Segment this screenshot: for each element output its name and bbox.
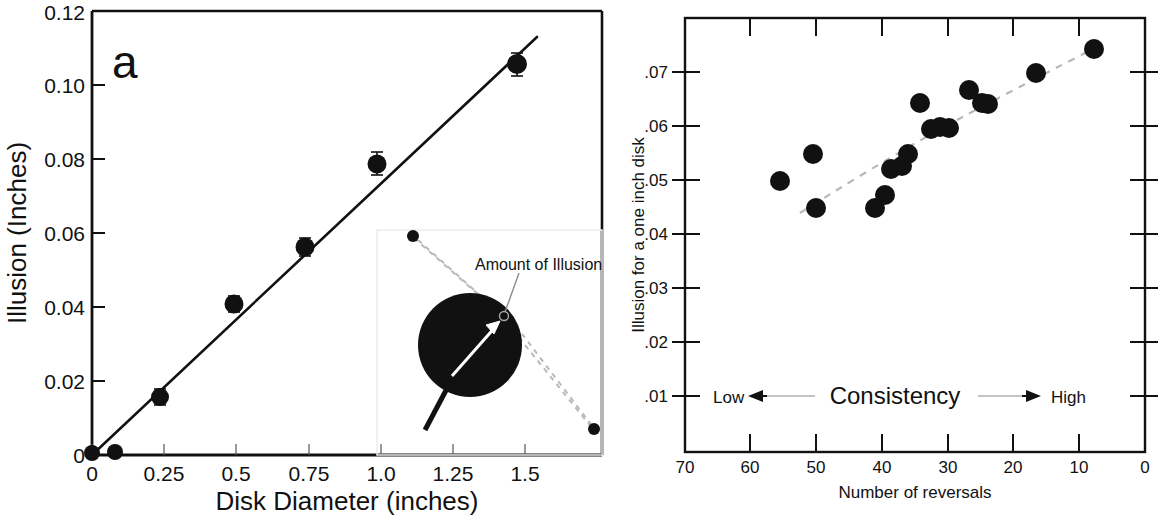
- panel-b-x-axis-title: Number of reversals: [838, 483, 991, 502]
- x-tick-label: 0.75: [289, 462, 330, 485]
- data-point: [151, 388, 169, 406]
- data-point: [978, 94, 998, 114]
- x-tick-label: 20: [1004, 458, 1023, 477]
- y-tick-label: 0.02: [44, 370, 85, 393]
- x-tick-label: 0.25: [144, 462, 185, 485]
- data-point: [770, 171, 790, 191]
- consistency-high-label: High: [1051, 388, 1086, 407]
- panel-b-y-axis-title: Illusion for a one inch disk: [630, 137, 648, 333]
- consistency-low-label: Low: [713, 388, 745, 407]
- x-tick-label: 30: [939, 458, 958, 477]
- x-tick-label: 1.25: [433, 462, 474, 485]
- panel-b-svg: Low Consistency High .01 .02 .03 .04 .05…: [630, 0, 1159, 516]
- data-point: [368, 152, 387, 175]
- panel-a-svg: 0 0.02 0.04 0.06 0.08 0.10 0.12 0 0.25 0…: [0, 0, 630, 516]
- data-point: [939, 118, 959, 138]
- panel-a-x-axis-title: Disk Diameter (inches): [216, 486, 479, 516]
- panel-b-y-ticks: [672, 72, 1158, 396]
- x-tick-label: 70: [676, 458, 695, 477]
- y-tick-label: .06: [644, 117, 668, 136]
- y-tick-label: 0.06: [44, 222, 85, 245]
- panel-b-data-points: [770, 39, 1104, 218]
- x-tick-label: 1.5: [510, 462, 539, 485]
- x-tick-label: 1.0: [366, 462, 395, 485]
- figure-container: 0 0.02 0.04 0.06 0.08 0.10 0.12 0 0.25 0…: [0, 0, 1159, 516]
- consistency-main-label: Consistency: [830, 382, 961, 409]
- data-point: [806, 198, 826, 218]
- inset-annotation-label: Amount of Illusion: [475, 256, 602, 273]
- panel-a-letter: a: [112, 36, 138, 88]
- consistency-annotation: Low Consistency High: [713, 382, 1086, 409]
- data-point: [910, 93, 930, 113]
- x-tick-label: 0.5: [221, 462, 250, 485]
- data-point: [898, 144, 918, 164]
- x-tick-label: 0: [1140, 458, 1149, 477]
- x-tick-label: 40: [873, 458, 892, 477]
- y-tick-label: 0: [73, 444, 85, 467]
- x-tick-label: 60: [741, 458, 760, 477]
- y-tick-label: .01: [644, 387, 668, 406]
- panel-a-axes: [92, 11, 602, 455]
- panel-a-y-tick-labels: 0 0.02 0.04 0.06 0.08 0.10 0.12: [44, 1, 85, 467]
- data-point: [84, 445, 100, 461]
- data-point: [296, 238, 315, 257]
- data-point: [107, 444, 123, 460]
- panel-b-x-tick-labels: 70 60 50 40 30 20 10 0: [676, 458, 1150, 477]
- panel-a-y-axis-title: Illusion (Inches): [2, 142, 32, 324]
- y-tick-label: .07: [644, 63, 668, 82]
- x-tick-label: 0: [86, 462, 98, 485]
- x-tick-label: 10: [1070, 458, 1089, 477]
- panel-b: Low Consistency High .01 .02 .03 .04 .05…: [630, 0, 1159, 516]
- data-point: [1084, 39, 1104, 59]
- data-point: [1026, 63, 1046, 83]
- data-point: [875, 185, 895, 205]
- panel-a-y-ticks: [92, 11, 105, 455]
- data-point: [225, 295, 244, 314]
- inset-dot-lower: [588, 423, 600, 435]
- y-tick-label: .02: [644, 333, 668, 352]
- x-tick-label: 50: [807, 458, 826, 477]
- y-tick-label: 0.12: [44, 1, 85, 24]
- data-point: [507, 53, 527, 76]
- panel-a-x-tick-labels: 0 0.25 0.5 0.75 1.0 1.25 1.5: [86, 462, 539, 485]
- panel-a: 0 0.02 0.04 0.06 0.08 0.10 0.12 0 0.25 0…: [0, 0, 630, 516]
- y-tick-label: 0.10: [44, 74, 85, 97]
- data-point: [803, 144, 823, 164]
- y-tick-label: 0.08: [44, 148, 85, 171]
- panel-a-x-ticks: [92, 444, 525, 455]
- inset-dot-upper: [407, 230, 419, 242]
- y-tick-label: 0.04: [44, 296, 85, 319]
